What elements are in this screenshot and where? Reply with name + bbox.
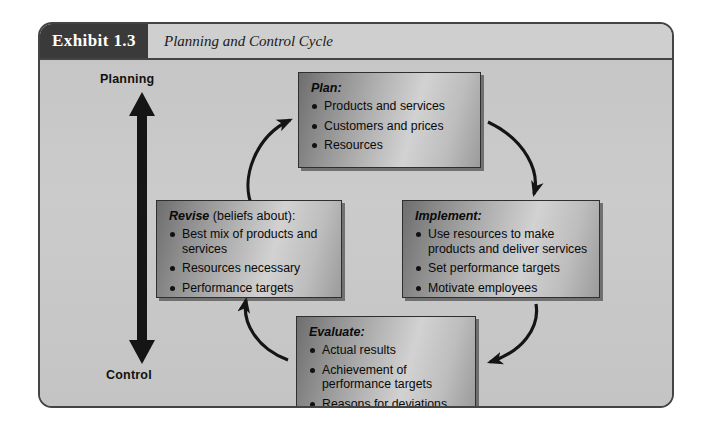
list-item: Resources bbox=[311, 138, 470, 153]
list-item: Resources necessary bbox=[169, 261, 331, 276]
curved-arrow-revise-to-plan bbox=[248, 120, 290, 206]
curved-arrow-implement-to-evaluate bbox=[490, 304, 537, 362]
exhibit-title: Planning and Control Cycle bbox=[164, 24, 333, 58]
box-implement-heading: Implement: bbox=[415, 208, 589, 224]
process-box-revise[interactable]: Revise (beliefs about): Best mix of prod… bbox=[156, 200, 342, 298]
process-box-evaluate[interactable]: Evaluate: Actual results Achievement of … bbox=[296, 316, 476, 408]
box-evaluate-heading-strong: Evaluate: bbox=[309, 325, 365, 339]
list-item: Use resources to make products and deliv… bbox=[415, 227, 589, 256]
box-implement-list: Use resources to make products and deliv… bbox=[415, 227, 589, 295]
control-axis-label: Control bbox=[106, 368, 152, 382]
exhibit-frame: Exhibit 1.3 Planning and Control Cycle P… bbox=[38, 22, 674, 408]
box-plan-heading-strong: Plan: bbox=[311, 81, 342, 95]
list-item: Performance targets bbox=[169, 281, 331, 296]
list-item: Reasons for deviations bbox=[309, 397, 465, 409]
box-revise-heading-plain: (beliefs about): bbox=[209, 209, 295, 223]
list-item: Achievement of performance targets bbox=[309, 363, 465, 392]
box-evaluate-heading: Evaluate: bbox=[309, 324, 465, 340]
process-box-implement[interactable]: Implement: Use resources to make product… bbox=[402, 200, 600, 298]
planning-control-double-arrow-icon bbox=[124, 92, 160, 364]
process-box-plan[interactable]: Plan: Products and services Customers an… bbox=[298, 72, 481, 168]
list-item: Motivate employees bbox=[415, 281, 589, 296]
exhibit-header: Exhibit 1.3 Planning and Control Cycle bbox=[40, 24, 672, 60]
list-item: Customers and prices bbox=[311, 119, 470, 134]
curved-arrow-plan-to-implement bbox=[488, 122, 535, 194]
box-evaluate-list: Actual results Achievement of performanc… bbox=[309, 343, 465, 408]
box-revise-heading-strong: Revise bbox=[169, 209, 209, 223]
box-implement-heading-strong: Implement: bbox=[415, 209, 482, 223]
list-item: Set performance targets bbox=[415, 261, 589, 276]
box-revise-list: Best mix of products and services Resour… bbox=[169, 227, 331, 295]
box-plan-list: Products and services Customers and pric… bbox=[311, 99, 470, 153]
box-plan-heading: Plan: bbox=[311, 80, 470, 96]
list-item: Best mix of products and services bbox=[169, 227, 331, 256]
box-revise-heading: Revise (beliefs about): bbox=[169, 208, 331, 224]
exhibit-number-tag: Exhibit 1.3 bbox=[40, 24, 148, 58]
list-item: Products and services bbox=[311, 99, 470, 114]
list-item: Actual results bbox=[309, 343, 465, 358]
planning-axis-label: Planning bbox=[100, 72, 154, 86]
curved-arrow-evaluate-to-revise bbox=[245, 300, 288, 360]
diagram-canvas: Planning Control Plan: Products and se bbox=[40, 60, 672, 408]
